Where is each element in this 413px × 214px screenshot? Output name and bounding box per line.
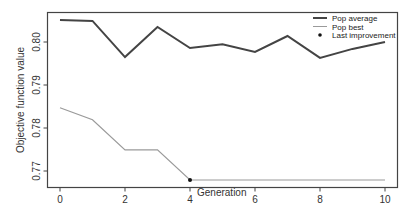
y-tick-label: 0.79 <box>31 75 42 95</box>
x-tick-label: 0 <box>57 194 63 205</box>
last-improvement-marker <box>188 178 192 182</box>
x-tick-label: 2 <box>122 194 128 205</box>
y-tick-label: 0.77 <box>31 161 42 181</box>
x-axis-title: Generation <box>197 187 246 198</box>
legend-label-last-improvement: Last improvement <box>332 31 396 40</box>
legend-last-improvement-dot-icon <box>318 33 322 37</box>
objective-function-chart: 0.770.780.790.80 0246810 Objective funct… <box>0 0 413 214</box>
x-tick-label: 10 <box>379 194 391 205</box>
y-axis-title: Objective function value <box>15 46 26 153</box>
x-tick-label: 6 <box>252 194 258 205</box>
x-tick-label: 4 <box>187 194 193 205</box>
annotation-layer <box>188 178 192 182</box>
y-tick-label: 0.78 <box>31 118 42 138</box>
y-tick-label: 0.80 <box>31 32 42 52</box>
x-tick-label: 8 <box>317 194 323 205</box>
